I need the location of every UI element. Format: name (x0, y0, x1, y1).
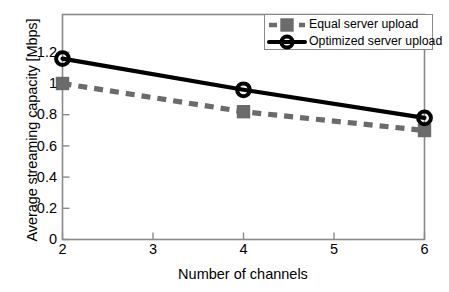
legend-label: Equal server upload (309, 18, 418, 31)
legend-marker-square-dashed-icon (265, 17, 309, 33)
legend-item-optimized-server-upload: Optimized server upload (265, 33, 432, 50)
x-axis-ticks (63, 233, 425, 240)
legend-label: Optimized server upload (309, 35, 442, 48)
y-axis-label: Average streaming capacity [Mbps] (24, 0, 40, 260)
x-tick-label: 4 (229, 242, 259, 257)
x-tick-label: 3 (138, 242, 168, 257)
legend: Equal server upload Optimized server upl… (264, 14, 433, 50)
chart-figure: 0 0.2 0.4 0.6 0.8 1 1.2 2 3 4 5 6 Averag… (0, 0, 449, 292)
legend-item-equal-server-upload: Equal server upload (265, 16, 432, 33)
legend-marker-circle-solid-icon (265, 34, 309, 50)
x-tick-label: 5 (319, 242, 349, 257)
y-tick-label: 1 (49, 76, 57, 91)
x-axis-label: Number of channels (62, 266, 424, 282)
x-tick-label: 6 (410, 242, 440, 257)
series-markers-equal-server-upload (57, 78, 431, 137)
x-tick-label: 2 (48, 242, 78, 257)
